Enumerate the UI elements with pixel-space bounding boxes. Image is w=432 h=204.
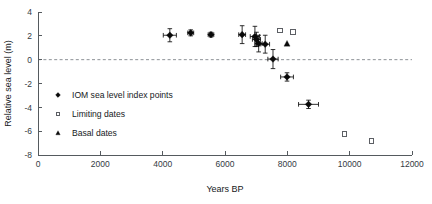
data-point: [291, 30, 296, 35]
data-point: [268, 50, 278, 69]
data-point: [299, 100, 319, 108]
x-tick-label-10000: 10000: [338, 159, 362, 169]
marker-filled-diamond: [270, 56, 277, 63]
chart-canvas: 020004000600080001000012000420-2-4-6-8Ye…: [0, 0, 432, 204]
x-tick-label-12000: 12000: [400, 159, 424, 169]
data-point: [187, 30, 194, 37]
marker-filled-diamond: [56, 93, 61, 98]
marker-filled-triangle: [56, 131, 60, 135]
legend-entry-2: Basal dates: [56, 128, 117, 138]
marker-filled-diamond: [208, 31, 215, 38]
y-tick-label-4: 4: [27, 7, 32, 17]
y-tick-label--6: -6: [24, 126, 32, 136]
legend-label: Limiting dates: [72, 109, 125, 119]
marker-open-square: [291, 30, 296, 35]
y-tick-label--8: -8: [24, 150, 32, 160]
marker-filled-diamond: [305, 101, 312, 108]
marker-filled-diamond: [239, 31, 246, 38]
data-point: [239, 26, 246, 44]
x-axis-title: Years BP: [206, 184, 243, 194]
marker-open-square: [342, 132, 347, 137]
legend-label: IOM sea level index points: [72, 90, 173, 100]
data-point: [261, 35, 270, 53]
x-tick-label-4000: 4000: [153, 159, 172, 169]
x-tick-label-8000: 8000: [278, 159, 297, 169]
marker-filled-diamond: [187, 30, 194, 37]
x-tick-label-2000: 2000: [91, 159, 110, 169]
series-limiting_dates: [278, 28, 374, 143]
data-point: [208, 31, 215, 38]
marker-open-square: [278, 28, 283, 33]
x-tick-label-6000: 6000: [216, 159, 235, 169]
sea-level-scatter-chart: 020004000600080001000012000420-2-4-6-8Ye…: [0, 0, 432, 204]
legend-entry-1: Limiting dates: [56, 109, 125, 119]
marker-filled-diamond: [167, 32, 174, 39]
y-tick-label-0: 0: [27, 55, 32, 65]
data-point: [284, 40, 290, 46]
legend-label: Basal dates: [72, 128, 117, 138]
marker-filled-diamond: [262, 41, 269, 48]
x-tick-label-0: 0: [36, 159, 41, 169]
data-point: [281, 73, 294, 81]
y-tick-label-2: 2: [27, 31, 32, 41]
marker-filled-triangle: [284, 40, 290, 46]
y-tick-label--4: -4: [24, 103, 32, 113]
chart-legend: IOM sea level index pointsLimiting dates…: [56, 90, 173, 138]
marker-filled-diamond: [284, 74, 291, 81]
marker-open-square: [369, 138, 374, 143]
series-basal_dates: [284, 40, 290, 46]
marker-open-square: [56, 112, 59, 115]
y-axis-title: Relative sea level (m): [3, 40, 13, 127]
data-point: [278, 28, 283, 33]
series-index_points: [163, 26, 318, 109]
data-point: [163, 29, 176, 42]
legend-entry-0: IOM sea level index points: [56, 90, 173, 100]
data-point: [342, 132, 347, 137]
y-tick-label--2: -2: [24, 79, 32, 89]
data-point: [369, 138, 374, 143]
